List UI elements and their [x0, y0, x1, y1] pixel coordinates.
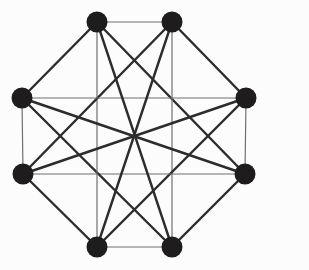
- graph-edge-n3-n4: [245, 98, 246, 174]
- graph-edge-n7-n8: [22, 98, 23, 174]
- graph-node-n2-top-right: [162, 12, 183, 33]
- graph-node-n7-left-lower: [13, 164, 34, 185]
- graph-node-n3-right-upper: [236, 88, 257, 109]
- graph-node-n1-top-left: [87, 12, 108, 33]
- graph-canvas: [0, 0, 309, 270]
- graph-node-n5-bottom-right: [162, 237, 183, 258]
- graph-node-n6-bottom-left: [87, 237, 108, 258]
- graph-node-n4-right-lower: [235, 164, 256, 185]
- graph-edge-n4-n5: [172, 174, 245, 247]
- graph-node-n8-left-upper: [12, 88, 33, 109]
- graph-edge-n8-n1: [22, 22, 97, 98]
- graph-edge-n6-n7: [23, 174, 97, 247]
- graph-edge-n2-n3: [172, 22, 246, 98]
- graph-figure: [0, 0, 309, 270]
